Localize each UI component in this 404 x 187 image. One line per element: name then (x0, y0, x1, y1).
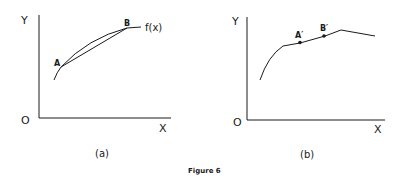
curve-fx (54, 27, 141, 80)
origin-label-b: O (233, 116, 242, 129)
figure-caption: Figure 6 (188, 167, 221, 175)
origin-label-a: O (21, 114, 30, 127)
panel-b: Y O X A′ B′ (b) (231, 15, 385, 160)
curve-b (260, 30, 375, 80)
point-b-label: B (124, 19, 130, 28)
x-axis-label-a: X (159, 122, 167, 135)
chord-ab (61, 28, 127, 67)
panel-label-b: (b) (300, 149, 314, 160)
panel-label-a: (a) (95, 148, 109, 159)
point-a-prime-dot (298, 41, 302, 45)
point-b-prime-label: B′ (320, 24, 328, 33)
curve-label-fx: f(x) (145, 22, 162, 33)
y-axis-label-a: Y (20, 14, 28, 27)
figure-6: Y O X A B f(x) (a) Y O X A′ B′ (b) Figur… (0, 0, 404, 187)
point-a-label: A (54, 59, 61, 68)
y-axis-label-b: Y (231, 15, 239, 28)
point-b-prime-dot (322, 34, 326, 38)
x-axis-label-b: X (374, 123, 382, 136)
panel-a: Y O X A B f(x) (a) (20, 14, 171, 159)
point-a-prime-label: A′ (295, 31, 303, 40)
